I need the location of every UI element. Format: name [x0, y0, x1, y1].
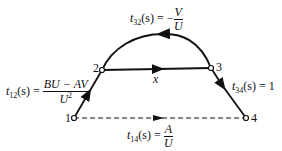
- node-2: [100, 68, 105, 73]
- node-label-4: 4: [251, 112, 257, 124]
- node-3: [209, 66, 214, 71]
- edge-1-4-arrowhead: [153, 115, 164, 121]
- edge-label-t14: t14(s) = AU: [127, 123, 173, 150]
- node-4: [244, 116, 249, 121]
- edge-label-t34: t34(s) = 1: [232, 80, 275, 95]
- node-label-2: 2: [93, 62, 99, 74]
- node-label-3: 3: [216, 61, 222, 73]
- edge-label-t32: t32(s) = −VU: [130, 6, 183, 33]
- node-1: [72, 116, 77, 121]
- edge-3-2-arc: [102, 34, 211, 70]
- edge-2-3: [102, 68, 211, 70]
- node-label-1: 1: [65, 112, 71, 124]
- edge-label-x: x: [153, 73, 158, 85]
- edge-label-t12: t12(s) = BU − AVU2: [6, 78, 89, 106]
